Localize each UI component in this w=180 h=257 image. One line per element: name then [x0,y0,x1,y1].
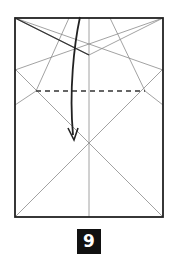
top-right-to-center [89,18,163,55]
crease-right-lower [145,91,163,105]
crease-top-slant-right [110,18,145,91]
crease-left-lower [15,91,36,105]
origami-diagram [0,0,180,257]
fold-arrow [72,17,80,135]
crease-top-slant-left [36,18,69,91]
crease-lines [15,18,163,217]
step-number-badge: 9 [77,229,101,254]
